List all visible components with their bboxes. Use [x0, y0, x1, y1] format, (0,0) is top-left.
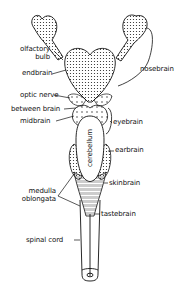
label-medulla-oblongata-line1: medulla [4, 188, 56, 195]
label-medulla-oblongata: medulla oblongata [4, 188, 56, 203]
label-olfactory-bulb-line2: bulb [2, 54, 50, 61]
label-between-brain: between brain [11, 106, 60, 113]
olfactory-bulb-right [116, 15, 147, 61]
label-nosebrain: nosebrain [140, 66, 174, 73]
label-optic-nerve: optic nerve [20, 92, 58, 99]
label-endbrain: endbrain [22, 70, 52, 77]
label-tastebrain: tastebrain [101, 211, 136, 218]
label-spinal-cord: spinal cord [26, 237, 63, 244]
label-medulla-oblongata-line2: oblongata [4, 196, 56, 203]
label-skinbrain: skinbrain [109, 180, 140, 187]
label-midbrain: midbrain [20, 118, 50, 125]
label-eyebrain: eyebrain [113, 119, 143, 126]
label-olfactory-bulb-line1: olfactory [2, 46, 50, 53]
label-earbrain: earbrain [115, 147, 144, 154]
label-cerebellum: cerebellum [87, 129, 94, 167]
label-olfactory-bulb: olfactory bulb [2, 46, 50, 61]
